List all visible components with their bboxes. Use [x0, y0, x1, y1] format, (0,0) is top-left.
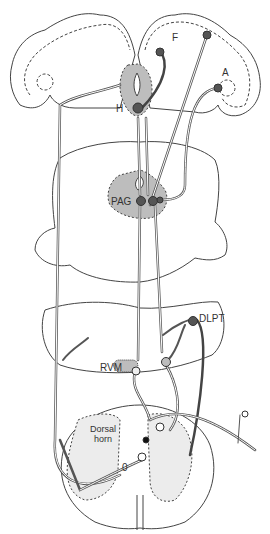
pain-modulation-diagram [0, 0, 270, 534]
label-pag: PAG [111, 197, 131, 207]
label-rvm: RVM [100, 363, 122, 373]
label-dlpt: DLPT [199, 314, 225, 324]
label-lamina-zero: 0 [122, 463, 128, 473]
label-dorsal-horn-line2: horn [86, 434, 120, 444]
label-amygdala: A [222, 68, 229, 78]
label-dorsal-horn: Dorsal horn [86, 424, 120, 444]
label-frontal: F [172, 33, 178, 43]
label-hypothalamus: H [116, 104, 123, 114]
label-dorsal-horn-line1: Dorsal [86, 424, 120, 434]
